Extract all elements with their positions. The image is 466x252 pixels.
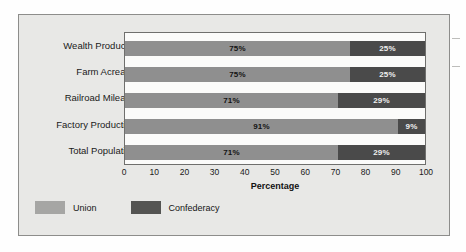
bar-value-label: 75% [229,44,246,53]
category-label: Railroad Mileage [31,85,136,111]
bar-row: 75%25% [125,67,425,82]
legend-label-confederacy: Confederacy [169,203,220,213]
category-axis-labels: Wealth Produced Farm Acreage Railroad Mi… [31,33,136,164]
chart-card: Wealth Produced Farm Acreage Railroad Mi… [18,14,450,236]
category-label: Factory Production [31,112,136,138]
x-axis-tick-label: 70 [331,167,340,177]
bar-segment-confederacy: 29% [338,93,425,108]
bar-segment-union: 75% [125,41,350,56]
category-label: Farm Acreage [31,59,136,85]
x-axis-tick-label: 80 [361,167,370,177]
scan-artifact [452,38,460,39]
bar-row: 75%25% [125,41,425,56]
bar-segment-confederacy: 9% [398,119,425,134]
bar-segment-union: 71% [125,145,338,160]
chart-page: Wealth Produced Farm Acreage Railroad Mi… [0,0,466,252]
category-label: Total Population [31,138,136,164]
legend-label-union: Union [73,203,97,213]
x-axis-tick-label: 10 [149,167,158,177]
x-axis: 0102030405060708090100 [124,167,426,181]
bar-row: 91%9% [125,119,425,134]
legend-swatch-union [35,201,65,214]
bar-value-label: 29% [373,148,390,157]
legend-item-union: Union [35,201,97,214]
x-axis-title: Percentage [124,181,426,191]
bar-value-label: 71% [223,148,240,157]
bar-value-label: 71% [223,96,240,105]
bar-value-label: 25% [379,44,396,53]
category-label: Wealth Produced [31,33,136,59]
legend-item-confederacy: Confederacy [131,201,220,214]
bar-value-label: 29% [373,96,390,105]
bar-segment-union: 75% [125,67,350,82]
bar-value-label: 9% [406,122,418,131]
x-axis-tick-label: 20 [180,167,189,177]
bar-row: 71%29% [125,145,425,160]
x-axis-tick-label: 100 [419,167,433,177]
bar-segment-confederacy: 25% [350,67,425,82]
x-axis-tick-label: 40 [240,167,249,177]
bar-value-label: 91% [253,122,270,131]
bar-segment-confederacy: 25% [350,41,425,56]
bar-segment-union: 71% [125,93,338,108]
x-axis-tick-label: 90 [391,167,400,177]
bar-segment-union: 91% [125,119,398,134]
plot-area: 75%25%75%25%71%29%91%9%71%29% [124,32,426,165]
bar-value-label: 75% [229,70,246,79]
bar-row: 71%29% [125,93,425,108]
bars-container: 75%25%75%25%71%29%91%9%71%29% [125,33,425,164]
chart-legend: Union Confederacy [35,201,220,214]
scan-artifact [452,66,460,67]
x-axis-tick-label: 60 [300,167,309,177]
x-axis-tick-label: 50 [270,167,279,177]
bar-segment-confederacy: 29% [338,145,425,160]
legend-swatch-confederacy [131,201,161,214]
x-axis-tick-label: 0 [122,167,127,177]
x-axis-tick-label: 30 [210,167,219,177]
bar-value-label: 25% [379,70,396,79]
